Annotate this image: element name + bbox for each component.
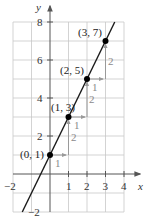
y-tick-6: 6 [37, 54, 43, 66]
point-label-2-5: (2, 5) [60, 64, 84, 77]
point-label-1-3: (1, 3) [51, 101, 75, 114]
point-label-0-1: (0, 1) [20, 148, 44, 161]
point-label-3-7: (3, 7) [78, 26, 102, 39]
tick-marks [47, 22, 124, 177]
y-axis-label: y [35, 1, 41, 13]
y-tick-8: 8 [37, 16, 43, 28]
point-3-7 [103, 38, 109, 44]
rise-label: 2 [71, 131, 77, 143]
x-tick-4: 4 [121, 180, 127, 192]
point-2-5 [84, 76, 90, 82]
run-label: 1 [92, 81, 98, 93]
y-tick-neg2: −2 [28, 206, 40, 218]
rise-label: 2 [108, 55, 114, 67]
run-label: 1 [55, 157, 61, 169]
x-tick-neg2: −2 [4, 180, 16, 192]
rise-label: 2 [89, 93, 95, 105]
y-tick-2: 2 [37, 130, 43, 142]
x-tick-2: 2 [84, 180, 90, 192]
x-tick-1: 1 [66, 180, 72, 192]
point-0-1 [47, 152, 53, 158]
y-tick-4: 4 [37, 92, 43, 104]
line-chart: −2 1 2 3 4 x 8 6 4 2 −2 y 1 2 1 2 1 2 (0… [0, 0, 156, 224]
point-1-3 [66, 114, 72, 120]
x-axis-label: x [137, 180, 143, 192]
run-label: 1 [74, 119, 80, 131]
x-tick-3: 3 [103, 180, 109, 192]
